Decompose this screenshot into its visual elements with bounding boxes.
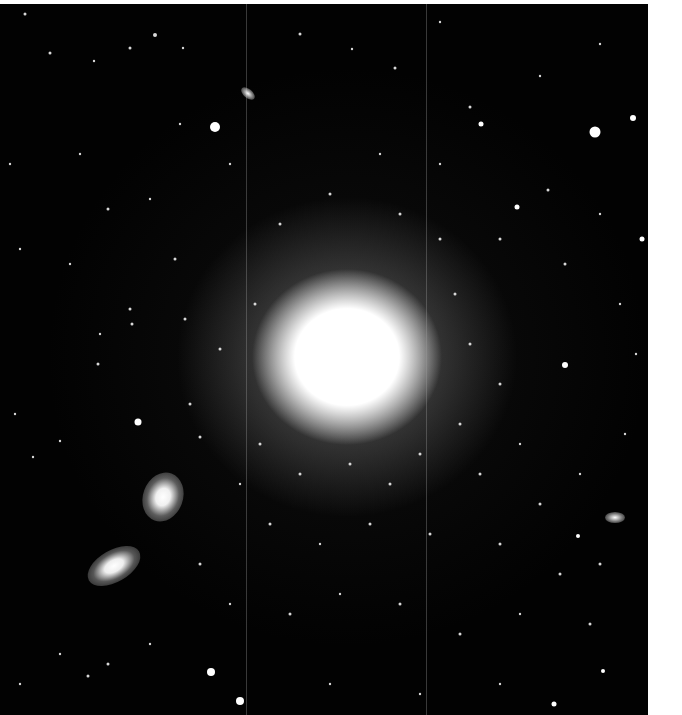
- faint-stars: [9, 13, 637, 696]
- galaxy-photo: [0, 4, 648, 715]
- bright-stars: [135, 115, 645, 707]
- star-field: [0, 4, 648, 715]
